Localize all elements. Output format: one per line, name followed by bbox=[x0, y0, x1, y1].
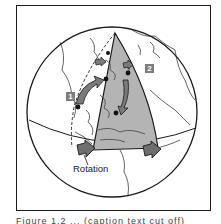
marker-label-2: 2 bbox=[145, 64, 154, 73]
rotating-globe-diagram bbox=[0, 0, 221, 224]
figure-caption: Figure 1.2 ... (caption text cut off) bbox=[16, 216, 185, 224]
rotation-label: Rotation bbox=[73, 163, 108, 174]
marker-label-1: 1 bbox=[66, 92, 75, 101]
